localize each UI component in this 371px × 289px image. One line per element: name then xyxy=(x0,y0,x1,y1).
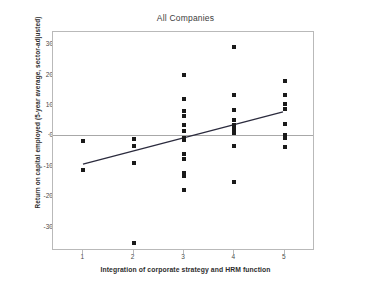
chart-title: All Companies xyxy=(0,13,371,23)
data-point xyxy=(232,45,236,49)
x-tick-mark xyxy=(284,250,285,254)
data-point xyxy=(81,168,85,172)
data-point xyxy=(182,174,186,178)
data-point xyxy=(182,114,186,118)
data-point xyxy=(232,131,236,135)
data-point xyxy=(182,123,186,127)
x-tick-mark xyxy=(133,250,134,254)
data-point xyxy=(182,129,186,133)
data-point xyxy=(283,107,287,111)
x-tick-mark xyxy=(82,250,83,254)
data-point xyxy=(132,241,136,245)
data-point xyxy=(232,118,236,122)
x-tick-mark xyxy=(233,250,234,254)
x-axis-title: Integration of corporate strategy and HR… xyxy=(0,266,371,273)
data-point xyxy=(283,93,287,97)
y-tick-label: -20 xyxy=(13,192,53,199)
data-point xyxy=(182,109,186,113)
data-point xyxy=(182,97,186,101)
x-tick-label: 3 xyxy=(171,253,195,260)
y-tick-label: 0 xyxy=(13,131,53,138)
data-point xyxy=(232,144,236,148)
data-point xyxy=(182,157,186,161)
scatter-chart-figure: All Companies Return on capital employed… xyxy=(0,0,371,289)
x-tick-mark xyxy=(183,250,184,254)
x-tick-label: 5 xyxy=(272,253,296,260)
data-point xyxy=(232,108,236,112)
y-tick-label: -30 xyxy=(13,222,53,229)
data-point xyxy=(132,161,136,165)
data-point xyxy=(81,139,85,143)
y-tick-label: -10 xyxy=(13,161,53,168)
y-tick-label: 20 xyxy=(13,70,53,77)
plot-area xyxy=(52,31,314,250)
y-tick-label: 10 xyxy=(13,101,53,108)
data-point xyxy=(132,137,136,141)
data-point xyxy=(182,188,186,192)
y-tick-label: 30 xyxy=(13,40,53,47)
x-tick-label: 2 xyxy=(121,253,145,260)
data-point xyxy=(283,122,287,126)
x-tick-label: 4 xyxy=(221,253,245,260)
data-point xyxy=(232,180,236,184)
x-tick-label: 1 xyxy=(70,253,94,260)
data-point xyxy=(182,138,186,142)
data-point xyxy=(232,93,236,97)
data-point xyxy=(283,136,287,140)
data-point xyxy=(182,152,186,156)
data-point xyxy=(132,144,136,148)
data-point xyxy=(283,79,287,83)
data-point xyxy=(182,73,186,77)
data-point xyxy=(283,145,287,149)
